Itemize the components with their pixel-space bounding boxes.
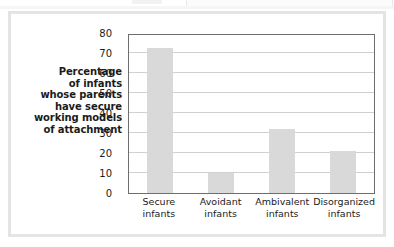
bar-slot [129,35,190,193]
x-axis-label-secure-infants: Secureinfants [128,196,190,219]
bar-slot [313,35,374,193]
y-tick-label-40: 40 [88,108,112,119]
scan-artifact-left [132,0,162,4]
bar-slot [190,35,251,193]
x-axis-label-avoidant-infants: Avoidantinfants [190,196,252,219]
plot-frame [128,34,375,194]
x-axis-label-line: infants [190,208,252,220]
bar-secure-infants [147,48,173,193]
x-axis-label-line: Secure [128,196,190,208]
bar-chart: Percentage of infants whose parents have… [11,14,383,234]
y-tick-label-80: 80 [88,28,112,39]
y-tick-label-60: 60 [88,68,112,79]
bars-container [129,35,374,193]
y-tick-label-30: 30 [88,128,112,139]
x-axis-label-line: infants [251,208,313,220]
x-axis-label-line: infants [128,208,190,220]
x-axis-label-disorganized-infants: Disorganizedinfants [313,196,375,219]
bar-avoidant-infants [208,173,234,193]
bar-slot [252,35,313,193]
y-tick-label-50: 50 [88,88,112,99]
x-axis-labels: SecureinfantsAvoidantinfantsAmbivalentin… [128,196,375,219]
y-tick-label-0: 0 [88,188,112,199]
scan-band [0,6,394,9]
x-axis-label-ambivalent-infants: Ambivalentinfants [251,196,313,219]
y-tick-label-70: 70 [88,48,112,59]
x-axis-label-line: infants [313,208,375,220]
x-axis-label-line: Disorganized [313,196,375,208]
y-tick-label-10: 10 [88,168,112,179]
bar-ambivalent-infants [269,129,295,193]
figure-panel: Percentage of infants whose parents have… [8,11,386,237]
x-axis-label-line: Ambivalent [251,196,313,208]
bar-disorganized-infants [330,151,356,193]
y-tick-label-20: 20 [88,148,112,159]
x-axis-label-line: Avoidant [190,196,252,208]
